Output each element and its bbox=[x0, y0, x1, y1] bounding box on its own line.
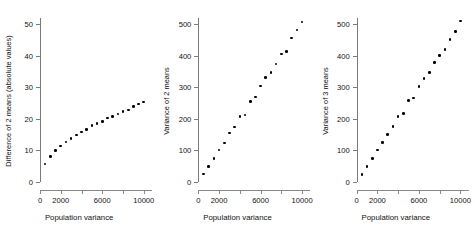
x-axis-tick-label: 6000 bbox=[252, 196, 269, 205]
data-point bbox=[59, 145, 62, 148]
data-point bbox=[223, 142, 226, 145]
x-axis-tick-rule bbox=[198, 190, 302, 191]
y-axis-tick-label: 50 bbox=[25, 20, 33, 29]
data-point bbox=[459, 20, 462, 23]
data-point bbox=[428, 71, 431, 74]
plot-area: 0102030405002000600010000 bbox=[40, 18, 150, 182]
data-point bbox=[207, 165, 210, 168]
y-axis-tick bbox=[353, 150, 357, 151]
data-point bbox=[381, 141, 384, 144]
y-axis-tick bbox=[36, 182, 40, 183]
data-point bbox=[366, 165, 369, 168]
data-point bbox=[101, 120, 104, 123]
data-point bbox=[91, 124, 94, 127]
data-point bbox=[301, 21, 304, 24]
y-axis-tick bbox=[36, 150, 40, 151]
y-axis-tick bbox=[194, 56, 198, 57]
y-axis-tick bbox=[194, 87, 198, 88]
data-point bbox=[85, 128, 88, 131]
plot-area: 010020030040050002000600010000 bbox=[357, 18, 467, 182]
data-point bbox=[54, 149, 57, 152]
data-point bbox=[264, 76, 267, 79]
data-point bbox=[202, 173, 205, 176]
x-axis-tick-label: 10000 bbox=[133, 196, 154, 205]
data-point bbox=[132, 105, 135, 108]
data-point bbox=[228, 132, 231, 135]
y-axis-tick bbox=[194, 182, 198, 183]
data-point bbox=[402, 112, 405, 115]
data-point bbox=[111, 115, 114, 118]
y-axis-tick-label: 100 bbox=[337, 146, 350, 155]
y-axis-tick-label: 30 bbox=[25, 83, 33, 92]
y-axis-title: Difference of 2 means (absolute values) bbox=[4, 6, 16, 196]
data-point bbox=[392, 125, 395, 128]
y-axis-tick-label: 100 bbox=[179, 146, 192, 155]
data-point bbox=[386, 133, 389, 136]
y-axis-tick bbox=[353, 87, 357, 88]
data-point bbox=[454, 30, 457, 33]
x-axis-tick-label: 10000 bbox=[450, 196, 471, 205]
x-axis-tick bbox=[144, 190, 145, 194]
x-axis-tick-label: 2000 bbox=[52, 196, 69, 205]
y-axis-tick-label: 20 bbox=[25, 114, 33, 123]
data-point bbox=[96, 122, 99, 125]
y-axis-tick-label: 500 bbox=[179, 20, 192, 29]
y-axis-tick bbox=[36, 24, 40, 25]
data-point bbox=[213, 157, 216, 160]
x-axis-title: Population variance bbox=[0, 213, 158, 222]
data-point bbox=[117, 113, 120, 116]
data-point bbox=[80, 131, 83, 134]
data-point bbox=[49, 155, 52, 158]
data-point bbox=[106, 117, 109, 120]
y-axis-tick bbox=[353, 24, 357, 25]
panel-variance-of-2-means: Variance of 2 means 01002003004005000200… bbox=[158, 0, 316, 235]
data-point bbox=[233, 126, 236, 129]
y-axis-tick bbox=[353, 56, 357, 57]
data-point bbox=[254, 96, 257, 99]
data-point bbox=[137, 103, 140, 106]
data-point bbox=[249, 100, 252, 103]
data-point bbox=[275, 63, 278, 66]
y-axis-tick-label: 500 bbox=[337, 20, 350, 29]
y-axis-tick-label: 40 bbox=[25, 51, 33, 60]
y-axis-tick bbox=[36, 56, 40, 57]
data-point bbox=[239, 115, 242, 118]
data-point bbox=[244, 114, 247, 117]
y-axis-tick bbox=[36, 87, 40, 88]
x-axis-title: Population variance bbox=[158, 213, 316, 222]
panel-difference-of-2-means: Difference of 2 means (absolute values) … bbox=[0, 0, 158, 235]
panel-variance-of-3-means: Variance of 3 means 01002003004005000200… bbox=[317, 0, 475, 235]
y-axis-tick-label: 300 bbox=[337, 83, 350, 92]
data-point bbox=[418, 85, 421, 88]
data-point bbox=[433, 61, 436, 64]
data-point bbox=[280, 53, 283, 56]
y-axis-tick bbox=[36, 119, 40, 120]
data-point bbox=[270, 71, 273, 74]
y-axis-tick-label: 0 bbox=[187, 178, 191, 187]
y-axis-tick-label: 0 bbox=[345, 178, 349, 187]
data-point bbox=[397, 115, 400, 118]
x-axis-tick-label: 0 bbox=[355, 196, 359, 205]
plot-area: 010020030040050002000600010000 bbox=[198, 18, 308, 182]
y-axis-title: Variance of 3 means bbox=[321, 6, 333, 196]
data-point bbox=[122, 110, 125, 113]
data-point bbox=[412, 97, 415, 100]
x-axis-tick bbox=[302, 190, 303, 194]
x-axis-tick-label: 2000 bbox=[211, 196, 228, 205]
data-point bbox=[407, 99, 410, 102]
data-point bbox=[371, 157, 374, 160]
y-axis-tick-label: 300 bbox=[179, 83, 192, 92]
data-point bbox=[127, 109, 130, 112]
multi-panel-scatter-figure: Difference of 2 means (absolute values) … bbox=[0, 0, 475, 235]
y-axis-tick-label: 400 bbox=[179, 51, 192, 60]
data-point bbox=[259, 85, 262, 88]
x-axis-tick-rule bbox=[40, 190, 144, 191]
data-point bbox=[75, 134, 78, 137]
data-point bbox=[444, 48, 447, 51]
data-point bbox=[218, 149, 221, 152]
data-point bbox=[376, 149, 379, 152]
x-axis-tick-label: 2000 bbox=[369, 196, 386, 205]
x-axis-tick bbox=[460, 190, 461, 194]
data-point bbox=[290, 37, 293, 40]
y-axis-tick bbox=[194, 150, 198, 151]
